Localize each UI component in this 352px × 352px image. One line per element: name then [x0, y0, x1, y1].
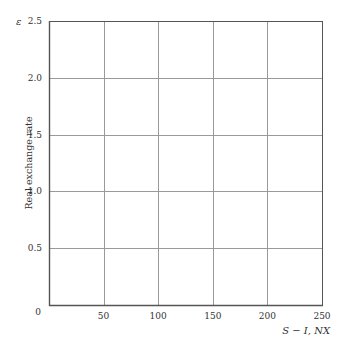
x-tick-label: 150	[204, 311, 221, 321]
y-axis-label: Real exchange rate	[23, 116, 34, 209]
y-axis-symbol: ε	[16, 16, 21, 27]
x-tick-labels: 50100150200250	[98, 311, 331, 321]
x-axis-label: S − I, NX	[282, 325, 331, 336]
axes	[49, 21, 323, 306]
y-tick-label: 0.5	[28, 243, 43, 253]
plot-frame	[50, 22, 323, 306]
y-tick-label: 2.0	[28, 73, 43, 83]
y-tick-label: 2.5	[28, 16, 43, 26]
x-tick-label: 250	[313, 311, 330, 321]
grid-lines	[49, 21, 322, 305]
x-tick-label: 50	[98, 311, 110, 321]
chart: 00.51.01.52.02.5 50100150200250 ε Real e…	[0, 0, 352, 352]
x-tick-label: 200	[259, 311, 276, 321]
y-tick-label: 0	[35, 307, 41, 317]
x-tick-label: 100	[150, 311, 167, 321]
